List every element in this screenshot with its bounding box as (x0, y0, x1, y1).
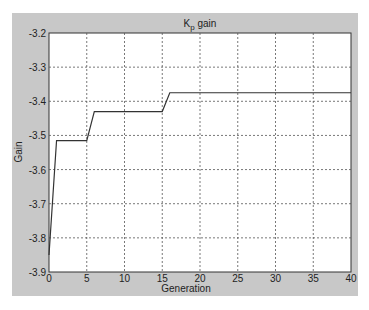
y-axis-ticks: -3.2-3.3-3.4-3.5-3.6-3.7-3.8-3.9 (29, 28, 47, 278)
x-tick-label: 40 (345, 273, 357, 284)
y-tick-label: -3.8 (29, 233, 47, 244)
x-tick-label: 0 (46, 273, 52, 284)
x-tick-label: 35 (308, 273, 320, 284)
y-tick-label: -3.6 (29, 165, 47, 176)
x-tick-label: 5 (84, 273, 90, 284)
y-tick-label: -3.2 (29, 28, 47, 39)
x-tick-label: 10 (119, 273, 131, 284)
y-tick-label: -3.5 (29, 130, 47, 141)
x-tick-label: 30 (270, 273, 282, 284)
y-tick-label: -3.3 (29, 62, 47, 73)
y-tick-label: -3.7 (29, 199, 47, 210)
x-axis-label: Generation (161, 283, 210, 294)
chart-title: Kp gain (184, 18, 217, 32)
x-tick-label: 25 (232, 273, 244, 284)
line-chart: Kp gain -3.2-3.3-3.4-3.5-3.6-3.7-3.8-3.9… (0, 0, 369, 310)
y-axis-label: Gain (13, 141, 24, 162)
y-tick-label: -3.4 (29, 96, 47, 107)
plot-area (49, 33, 351, 272)
y-tick-label: -3.9 (29, 267, 47, 278)
